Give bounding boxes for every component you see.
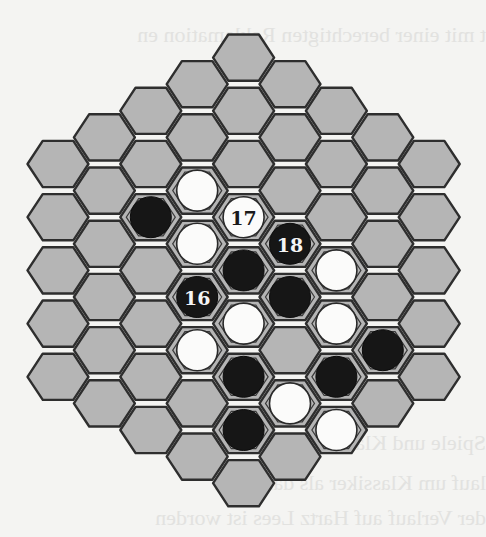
black-stone — [270, 277, 311, 318]
white-stone — [270, 383, 311, 424]
board-cell[interactable] — [213, 141, 274, 187]
white-stone-disc — [223, 303, 264, 344]
black-stone — [223, 356, 264, 397]
white-stone-disc — [177, 170, 218, 211]
white-stone-disc — [177, 330, 218, 371]
black-stone-disc — [316, 356, 357, 397]
black-stone-disc — [270, 277, 311, 318]
black-stone — [130, 197, 171, 238]
black-stone — [223, 410, 264, 451]
white-stone-disc — [177, 223, 218, 264]
white-stone — [316, 250, 357, 291]
black-stone — [362, 330, 403, 371]
move-number-label: 17 — [230, 207, 256, 229]
white-stone — [316, 410, 357, 451]
hex-game-board: 161718 — [0, 0, 486, 537]
white-stone-disc — [316, 250, 357, 291]
move-number-label: 18 — [277, 234, 303, 256]
white-stone — [223, 303, 264, 344]
white-stone-disc — [316, 303, 357, 344]
white-stone-disc — [270, 383, 311, 424]
black-stone-disc — [130, 197, 171, 238]
board-cell[interactable] — [213, 88, 274, 134]
black-stone — [223, 250, 264, 291]
white-stone-disc — [316, 410, 357, 451]
black-stone: 16 — [177, 277, 218, 318]
black-stone — [316, 356, 357, 397]
board-cell[interactable] — [213, 35, 274, 81]
white-stone — [177, 223, 218, 264]
board-cell[interactable] — [213, 460, 274, 506]
white-stone — [177, 170, 218, 211]
white-stone: 17 — [223, 197, 264, 238]
white-stone — [316, 303, 357, 344]
black-stone-disc — [223, 410, 264, 451]
white-stone — [177, 330, 218, 371]
black-stone-disc — [362, 330, 403, 371]
black-stone-disc — [223, 250, 264, 291]
move-number-label: 16 — [184, 287, 210, 309]
black-stone: 18 — [270, 223, 311, 264]
black-stone-disc — [223, 356, 264, 397]
